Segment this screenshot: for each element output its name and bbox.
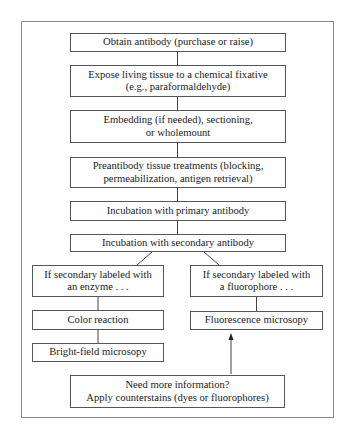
node-obtain-antibody: Obtain antibody (purchase or raise) <box>70 33 286 52</box>
node-fluorophore-branch: If secondary labeled with a fluorophore … <box>190 265 323 297</box>
node-fixative: Expose living tissue to a chemical fixat… <box>70 65 286 97</box>
node-embedding: Embedding (if needed), sectioning, or wh… <box>70 110 286 143</box>
node-primary-antibody: Incubation with primary antibody <box>70 201 286 221</box>
node-fluorescence-microscopy: Fluorescence microsopy <box>190 311 323 330</box>
node-enzyme-branch: If secondary labeled with an enzyme . . … <box>32 265 164 297</box>
node-color-reaction: Color reaction <box>32 310 164 330</box>
node-counterstains: Need more information? Apply counterstai… <box>70 375 285 408</box>
connector-secondary-enzyme <box>137 252 152 265</box>
node-bright-field-microscopy: Bright-field microsopy <box>32 343 164 362</box>
arrowhead-up-icon <box>229 333 234 340</box>
node-secondary-antibody: Incubation with secondary antibody <box>70 234 286 252</box>
node-preantibody-treatments: Preantibody tissue treatments (blocking,… <box>70 157 286 188</box>
connector-secondary-fluor <box>204 252 219 265</box>
